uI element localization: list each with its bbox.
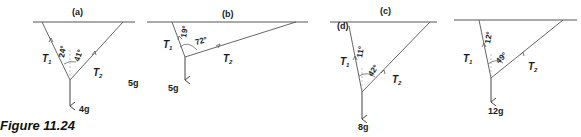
t1-label: T1 xyxy=(42,53,52,65)
extra-weight-label: 5g xyxy=(128,78,139,88)
t2-label: T2 xyxy=(93,67,103,79)
tension-arrow-icon xyxy=(381,70,385,74)
tension-arrow-icon xyxy=(520,52,524,56)
panel-label-secondary: (d) xyxy=(337,21,349,31)
t1-label: T1 xyxy=(340,56,350,68)
angle-t1-label: 19° xyxy=(179,25,190,38)
panel-label: (c) xyxy=(380,6,391,16)
angle-t2-label: 42° xyxy=(366,63,380,78)
t2-label: T2 xyxy=(528,61,538,73)
weight-label: 12g xyxy=(488,106,504,116)
figure-diagram: (a) T1 T2 24° 41° 4g 5g (b) T1 T2 19° 72… xyxy=(0,0,581,137)
weight-label: 4g xyxy=(79,104,90,114)
string-t1 xyxy=(479,20,491,78)
t2-label: T2 xyxy=(392,74,402,86)
angle-t2-label: 49° xyxy=(494,50,509,65)
panel-label: (a) xyxy=(72,7,83,17)
string-t1 xyxy=(349,26,362,92)
weight-label: 5g xyxy=(168,83,179,93)
angle-t1-label: 24° xyxy=(57,45,68,58)
t1-label: T1 xyxy=(463,53,473,65)
weight-label: 8g xyxy=(358,122,369,132)
t1-label: T1 xyxy=(163,39,173,51)
figure-caption: Figure 11.24 xyxy=(0,118,75,133)
angle-t1-label: 11° xyxy=(355,45,366,58)
string-t2 xyxy=(491,20,563,78)
panel-d: T1 T2 12° 49° 12g xyxy=(454,20,577,116)
t2-label: T2 xyxy=(223,53,233,65)
panel-b: (b) T1 T2 19° 72° 5g xyxy=(147,9,308,93)
angle-t2-label: 41° xyxy=(72,48,85,62)
panel-label: (b) xyxy=(222,9,234,19)
panel-c: (c) (d) T1 T2 11° 42° 8g xyxy=(330,6,437,132)
angle-t2-label: 72° xyxy=(194,35,208,47)
panel-a: (a) T1 T2 24° 41° 4g 5g xyxy=(33,7,139,114)
angle-t1-label: 12° xyxy=(483,31,494,44)
